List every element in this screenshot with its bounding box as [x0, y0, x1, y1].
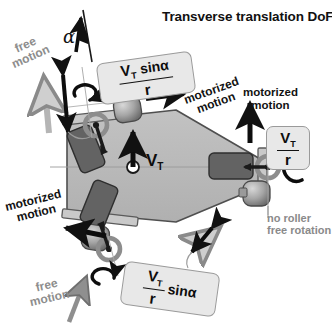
page-title: Transverse translation DoF [162, 10, 332, 24]
no-roller-label: no roller free rotation [267, 212, 331, 237]
center-velocity-subscript: T [157, 161, 163, 172]
formula-right-denominator: r [282, 151, 294, 167]
formula-bottom-sin: sinα [167, 281, 198, 301]
no-roller-line2: free rotation [267, 224, 331, 236]
formula-top-left-sin: sinα [139, 56, 170, 76]
center-velocity-label: VT [146, 152, 163, 173]
formula-bottom-fraction: VT r [141, 267, 167, 307]
alpha-angle-label: α [63, 28, 75, 47]
formula-bottom-expression: VT r sinα [141, 267, 199, 311]
formula-right-numerator: VT [277, 130, 299, 151]
formula-box-right: VT r [266, 126, 310, 170]
roller-right [239, 181, 270, 206]
free-motion-arrow-bottom-left [69, 278, 86, 322]
formula-top-left-denominator: r [140, 80, 154, 97]
center-velocity-symbol: V [146, 151, 157, 170]
motorized-right-line2: motion [243, 99, 298, 112]
free-motion-arrow-bottom [187, 228, 218, 268]
formula-right-fraction: VT r [277, 130, 299, 167]
formula-top-left-expression: VT sinα r [116, 56, 175, 100]
formula-top-left-fraction: VT sinα r [116, 56, 175, 100]
formula-bottom-denominator: r [146, 288, 160, 305]
rotation-curl-bottom [92, 269, 114, 284]
motorized-right-line1: motorized [243, 86, 298, 99]
alpha-angle-group [76, 10, 92, 62]
motorized-motion-label-right: motorized motion [243, 86, 298, 112]
diagram-canvas: Transverse translation DoF α VT free mot… [0, 0, 332, 331]
formula-right-expression: VT r [277, 130, 299, 167]
formula-bottom-numerator: VT [143, 267, 167, 291]
no-roller-line1: no roller [267, 212, 331, 224]
